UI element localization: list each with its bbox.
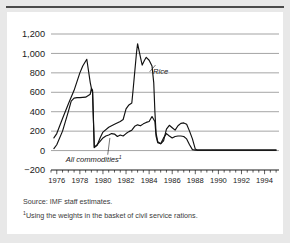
x-axis-tick-label: 1982 (118, 176, 135, 185)
x-axis-tick-label: 1976 (48, 176, 65, 185)
x-axis-tick-label: 1978 (71, 176, 88, 185)
x-axis-tick-label: 1988 (187, 176, 204, 185)
y-axis-tick-label: −200 (24, 165, 45, 175)
series-annotations-group: RiceAll commodities1 (65, 65, 169, 164)
series-line-all-commodities (54, 88, 276, 150)
x-axis-tick-label: 1980 (94, 176, 111, 185)
x-axis-tick-label: 1990 (210, 176, 227, 185)
figure-footnotes: Source: IMF staff estimates. 1Using the … (23, 197, 273, 221)
x-axis-tick-label: 1986 (164, 176, 181, 185)
footnote-line: 1Using the weights in the basket of civi… (23, 208, 273, 222)
y-axis-tick-label: 1,000 (22, 49, 45, 59)
annotation-leader-line (108, 138, 110, 155)
annotation-rice: Rice (153, 67, 168, 76)
y-axis-tick-label: 800 (30, 68, 45, 78)
y-axis-tick-label: 400 (30, 107, 45, 117)
top-rule-divider (6, 6, 284, 8)
y-axis-tick-label: 200 (30, 126, 45, 136)
bottom-strip (0, 234, 290, 243)
chart-plot-area: −20002004006008001,0001,200 197619781980… (7, 12, 283, 190)
y-axis-tick-label: 600 (30, 87, 45, 97)
annotation-all-commodities: All commodities1 (65, 154, 122, 163)
y-axis-tick-label: 0 (40, 146, 45, 156)
figure-page: −20002004006008001,0001,200 197619781980… (0, 0, 290, 243)
source-note: Source: IMF staff estimates. (23, 197, 273, 208)
y-axis-tick-label: 1,200 (22, 29, 45, 39)
x-axis-tick-labels-group: 1976197819801982198419861988199019921994 (48, 176, 273, 185)
line-chart: −20002004006008001,0001,200 197619781980… (7, 12, 283, 190)
data-series-group (54, 44, 276, 150)
y-axis-tick-labels-group: −20002004006008001,0001,200 (22, 29, 45, 175)
series-line-rice (54, 44, 276, 150)
figure-card: −20002004006008001,0001,200 197619781980… (7, 12, 283, 234)
footnote-text: Using the weights in the basket of civil… (26, 211, 198, 220)
x-axis-tick-label: 1984 (141, 176, 158, 185)
x-axis-tick-label: 1994 (256, 176, 273, 185)
x-axis-ticks-group (51, 170, 276, 174)
x-axis-tick-label: 1992 (233, 176, 250, 185)
annotation-superscript: 1 (119, 154, 122, 160)
